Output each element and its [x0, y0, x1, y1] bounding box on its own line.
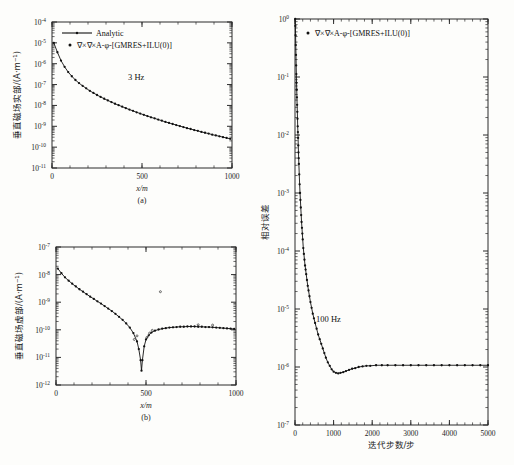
- data-point: [298, 163, 300, 165]
- x-tick-label: 1000: [326, 429, 341, 438]
- panel-caption: (a): [138, 196, 147, 205]
- y-tick-label: 10-10: [35, 325, 50, 335]
- data-point: [298, 157, 300, 159]
- data-point: [135, 111, 137, 113]
- svg-text:10-5: 10-5: [277, 304, 289, 314]
- data-point: [60, 59, 62, 61]
- data-point: [303, 259, 305, 261]
- data-point: [85, 87, 87, 89]
- data-point: [125, 107, 127, 109]
- data-point: [322, 347, 324, 349]
- data-point: [295, 64, 297, 66]
- data-point: [200, 131, 202, 133]
- data-point: [296, 118, 298, 120]
- legend-label: ∇×∇×A-φ-[GMRES+ILU(0)]: [76, 41, 172, 50]
- data-point: [226, 327, 228, 329]
- data-point: [148, 334, 150, 336]
- panel-a-chart: 10-410-510-610-710-810-910-1010-11050010…: [0, 0, 260, 225]
- x-axis-title: x/m: [135, 184, 148, 193]
- y-axis-title: 垂直磁场虚部/(A·m⁻¹): [14, 272, 24, 360]
- legend-marker-swatch: [69, 44, 72, 47]
- data-point: [211, 326, 213, 328]
- x-axis-title: 迭代步数/步: [368, 440, 416, 450]
- y-tick-label: 10-5: [34, 38, 46, 48]
- data-point: [96, 94, 98, 96]
- data-point: [219, 327, 221, 329]
- data-point: [63, 66, 65, 68]
- data-point: [304, 268, 306, 270]
- svg-text:10-6: 10-6: [277, 362, 289, 372]
- data-point: [168, 326, 170, 328]
- data-point: [60, 272, 62, 274]
- data-point: [375, 364, 377, 366]
- data-point: [297, 131, 299, 133]
- data-point: [57, 267, 59, 269]
- data-point: [294, 25, 296, 27]
- data-point: [471, 364, 473, 366]
- panel-b-chart: 10-710-810-910-1010-1110-1205001000x/m垂直…: [0, 225, 260, 465]
- data-point: [71, 283, 73, 285]
- data-point: [157, 328, 159, 330]
- data-point: [299, 192, 301, 194]
- data-point: [365, 365, 367, 367]
- data-point: [296, 111, 298, 113]
- data-point: [140, 369, 142, 371]
- outlier-point: [151, 329, 153, 331]
- data-point: [299, 199, 301, 201]
- data-point: [100, 302, 102, 304]
- data-point: [129, 326, 131, 328]
- data-point: [301, 232, 303, 234]
- data-point: [295, 73, 297, 75]
- y-tick-label: 10-2: [277, 130, 289, 140]
- data-point: [327, 361, 329, 363]
- data-point: [296, 104, 298, 106]
- data-point: [132, 332, 134, 334]
- data-point: [110, 101, 112, 103]
- data-point: [297, 125, 299, 127]
- data-point: [358, 366, 360, 368]
- x-tick-label: 0: [293, 429, 297, 438]
- data-point: [197, 130, 199, 132]
- svg-text:10-7: 10-7: [277, 420, 289, 430]
- data-point: [189, 128, 191, 130]
- data-point: [325, 357, 327, 359]
- y-tick-label: 10-6: [277, 362, 289, 372]
- svg-text:10-10: 10-10: [31, 142, 46, 152]
- data-point: [298, 173, 300, 175]
- data-point: [136, 340, 138, 342]
- data-point: [186, 127, 188, 129]
- y-tick-label: 10-4: [34, 17, 46, 27]
- data-point: [81, 85, 83, 87]
- data-point: [323, 352, 325, 354]
- data-point: [294, 18, 296, 20]
- data-point: [300, 214, 302, 216]
- svg-text:10-4: 10-4: [277, 246, 289, 256]
- y-tick-label: 10-11: [32, 163, 47, 173]
- outlier-point: [212, 324, 214, 326]
- data-point: [297, 144, 299, 146]
- y-tick-label: 100: [279, 14, 290, 24]
- svg-text:100: 100: [279, 14, 290, 24]
- data-point: [332, 370, 334, 372]
- data-point: [317, 333, 319, 335]
- data-point: [218, 135, 220, 137]
- data-point: [138, 348, 140, 350]
- data-point: [53, 42, 55, 44]
- data-point: [354, 367, 356, 369]
- outlier-point: [133, 338, 135, 340]
- data-point: [301, 227, 303, 229]
- data-point: [297, 137, 299, 139]
- x-tick-label: 2000: [365, 429, 380, 438]
- data-point: [201, 326, 203, 328]
- data-point: [89, 296, 91, 298]
- data-point: [141, 359, 143, 361]
- data-point: [121, 319, 123, 321]
- y-tick-label: 10-1: [277, 72, 289, 82]
- data-point: [302, 238, 304, 240]
- data-point: [56, 51, 58, 53]
- data-point: [117, 104, 119, 106]
- data-point: [78, 82, 80, 84]
- data-point: [222, 327, 224, 329]
- data-point: [298, 183, 300, 185]
- data-point: [296, 89, 298, 91]
